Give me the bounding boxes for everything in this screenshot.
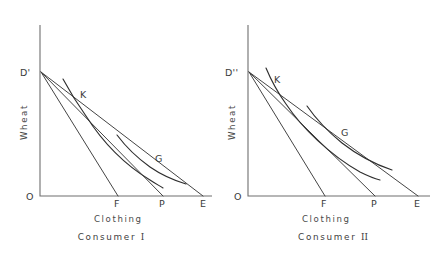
budget-line-dp-consumer-1 — [41, 72, 163, 196]
economics-figure: D' O K G F P E Clothing Wheat D'' O — [0, 0, 444, 261]
label-x-tick-e-consumer-1: E — [200, 198, 206, 209]
budget-line-de-consumer-2 — [249, 72, 418, 196]
label-x-tick-p-consumer-2: P — [371, 198, 377, 209]
label-tangency-g-consumer-2: G — [341, 127, 349, 138]
label-x-tick-e-consumer-2: E — [414, 198, 420, 209]
caption-consumer-1: Consumer I — [0, 232, 222, 242]
label-origin-consumer-1: O — [26, 191, 34, 202]
caption-numeral-consumer-1: I — [141, 232, 144, 242]
label-wheat-intercept-consumer-2: D'' — [225, 67, 238, 78]
label-x-tick-p-consumer-1: P — [159, 198, 165, 209]
indifference-curve-g-consumer-2 — [307, 106, 392, 170]
label-tangency-k-consumer-2: K — [274, 74, 281, 85]
indifference-curve-k-consumer-1 — [63, 79, 163, 188]
label-origin-consumer-2: O — [234, 191, 242, 202]
panel-consumer-2: D'' O K G F P E Clothing Wheat — [222, 0, 444, 261]
x-axis-label-consumer-1: Clothing — [94, 214, 143, 224]
caption-consumer-2: Consumer II — [222, 232, 444, 242]
label-x-tick-f-consumer-2: F — [321, 198, 327, 209]
axes-consumer-2 — [248, 25, 430, 196]
budget-line-de-consumer-1 — [41, 72, 203, 196]
axes-consumer-1 — [40, 25, 212, 196]
caption-prefix-consumer-2: Consumer — [298, 232, 361, 242]
budget-line-dp-consumer-2 — [249, 72, 375, 196]
x-axis-label-consumer-2: Clothing — [302, 214, 351, 224]
budget-line-df-consumer-2 — [249, 72, 325, 196]
caption-prefix-consumer-1: Consumer — [78, 232, 141, 242]
indifference-curve-k-consumer-2 — [266, 68, 380, 180]
label-x-tick-f-consumer-1: F — [114, 198, 120, 209]
label-tangency-g-consumer-1: G — [155, 153, 163, 164]
label-wheat-intercept-consumer-1: D' — [20, 67, 31, 78]
y-axis-label-consumer-2: Wheat — [227, 104, 237, 140]
caption-numeral-consumer-2: II — [361, 232, 368, 242]
y-axis-label-consumer-1: Wheat — [19, 104, 29, 140]
label-tangency-k-consumer-1: K — [80, 89, 87, 100]
panel-consumer-1: D' O K G F P E Clothing Wheat — [0, 0, 222, 261]
